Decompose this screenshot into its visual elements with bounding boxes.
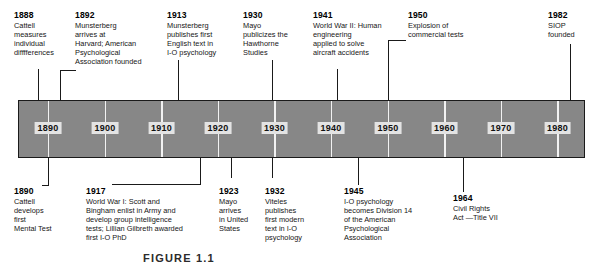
event-year: 1890 — [14, 186, 72, 197]
connector-1950-elbow — [388, 40, 406, 41]
event-year: 1917 — [86, 186, 211, 197]
decade-label-1910: 1910 — [148, 122, 175, 134]
event-label-1917: 1917 World War I: Scott and Bingham enli… — [86, 186, 211, 242]
connector-1945 — [358, 158, 359, 185]
connector-1892 — [60, 70, 61, 100]
connector-1917-elbow — [112, 184, 201, 185]
connector-1950 — [388, 40, 389, 100]
event-label-1982: 1982 SIOP founded — [548, 10, 598, 39]
event-description: World War II: Human engineering applied … — [313, 21, 397, 57]
timeline-figure: 1888 Cattell measures individual diffffe… — [0, 0, 606, 264]
decade-label-1960: 1960 — [431, 122, 458, 134]
decade-label-1980: 1980 — [544, 122, 571, 134]
event-year: 1930 — [243, 10, 305, 21]
event-description: Mayo arrives in United States — [219, 197, 261, 233]
event-label-1932: 1932 Viteles publishes first modern text… — [265, 186, 317, 242]
connector-1917 — [200, 158, 201, 185]
event-description: Cattell develops first Mental Test — [14, 197, 72, 233]
event-description: I-O psychology becomes Division 14 of th… — [344, 197, 432, 242]
event-description: SIOP founded — [548, 21, 598, 39]
connector-1923 — [231, 158, 232, 178]
event-year: 1982 — [548, 10, 598, 21]
connector-1913 — [178, 60, 179, 100]
connector-1930 — [272, 60, 273, 100]
connector-1941 — [337, 69, 338, 100]
event-label-1941: 1941 World War II: Human engineering app… — [313, 10, 397, 57]
event-description: Munsterberg publishes first English text… — [167, 21, 235, 57]
event-label-1950: 1950 Explosion of commercial tests — [408, 10, 488, 39]
event-year: 1913 — [167, 10, 235, 21]
event-label-1964: 1964 Civil Rights Act —Title VII — [453, 193, 525, 222]
event-label-1892: 1892 Munsterberg arrives at Harvard; Ame… — [75, 10, 157, 66]
decade-label-1970: 1970 — [488, 122, 515, 134]
connector-1982 — [570, 44, 571, 100]
decade-label-1940: 1940 — [318, 122, 345, 134]
decade-label-1950: 1950 — [375, 122, 402, 134]
decade-label-1930: 1930 — [261, 122, 288, 134]
event-label-1913: 1913 Munsterberg publishes first English… — [167, 10, 235, 57]
event-year: 1941 — [313, 10, 397, 21]
event-year: 1892 — [75, 10, 157, 21]
event-label-1930: 1930 Mayo publicizes the Hawthorne Studi… — [243, 10, 305, 57]
event-year: 1932 — [265, 186, 317, 197]
event-description: Munsterberg arrives at Harvard; American… — [75, 21, 157, 66]
event-description: Explosion of commercial tests — [408, 21, 488, 39]
event-description: Mayo publicizes the Hawthorne Studies — [243, 21, 305, 57]
connector-1892-elbow — [60, 70, 76, 71]
event-label-1888: 1888 Cattell measures individual diffffe… — [14, 10, 72, 57]
connector-1888 — [38, 69, 39, 100]
event-year: 1888 — [14, 10, 72, 21]
decade-label-1920: 1920 — [205, 122, 232, 134]
connector-1890 — [48, 158, 49, 186]
event-year: 1950 — [408, 10, 488, 21]
event-year: 1923 — [219, 186, 261, 197]
decade-label-1900: 1900 — [92, 122, 119, 134]
timeline-bar: 1890 1900 1910 1920 1930 1940 1950 1960 … — [18, 100, 585, 158]
connector-1932 — [272, 158, 273, 178]
decade-label-1890: 1890 — [35, 122, 62, 134]
event-label-1945: 1945 I-O psychology becomes Division 14 … — [344, 186, 432, 242]
event-description: World War I: Scott and Bingham enlist in… — [86, 197, 211, 242]
event-description: Cattell measures individual difffference… — [14, 21, 72, 57]
event-label-1923: 1923 Mayo arrives in United States — [219, 186, 261, 233]
event-year: 1945 — [344, 186, 432, 197]
figure-caption: FIGURE 1.1 — [143, 252, 215, 264]
event-label-1890: 1890 Cattell develops first Mental Test — [14, 186, 72, 233]
event-year: 1964 — [453, 193, 525, 204]
connector-1964 — [463, 158, 464, 192]
event-description: Civil Rights Act —Title VII — [453, 204, 525, 222]
event-description: Viteles publishes first modern text in I… — [265, 197, 317, 242]
